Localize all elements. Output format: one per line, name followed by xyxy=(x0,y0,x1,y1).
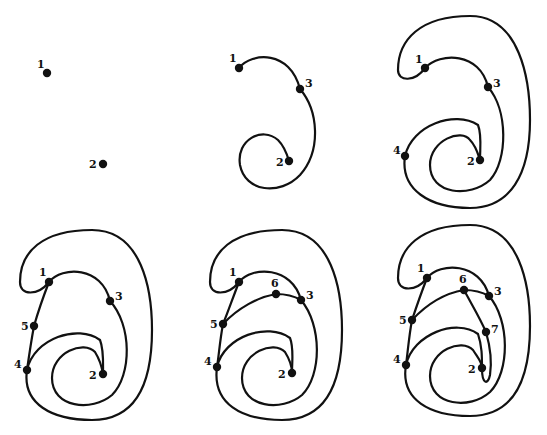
panel-6: 1635742 xyxy=(393,225,530,416)
graph-vertex-1 xyxy=(45,278,53,286)
panel-1: 12 xyxy=(37,58,107,171)
graph-vertex-4 xyxy=(401,152,409,160)
graph-vertex-6 xyxy=(460,286,468,294)
graph-edge xyxy=(52,301,127,405)
graph-vertex-1 xyxy=(423,274,431,282)
graph-vertex-3 xyxy=(106,297,114,305)
graph-vertex-3 xyxy=(297,296,305,304)
vertex-label: 6 xyxy=(459,273,467,286)
vertex-label: 1 xyxy=(229,266,237,279)
panel-2: 132 xyxy=(229,52,315,188)
vertex-label: 5 xyxy=(21,320,29,333)
vertex-label: 4 xyxy=(393,144,401,157)
graph-vertex-5 xyxy=(30,322,38,330)
graph-edge xyxy=(240,89,315,188)
graph-edge xyxy=(217,331,293,373)
graph-edge xyxy=(398,16,530,208)
graph-vertex-2 xyxy=(288,369,296,377)
graph-edge xyxy=(20,230,152,420)
vertex-label: 4 xyxy=(204,355,212,368)
graph-vertex-5 xyxy=(408,316,416,324)
graph-vertex-4 xyxy=(213,363,221,371)
graph-vertex-2 xyxy=(99,370,107,378)
vertex-label: 2 xyxy=(89,158,97,171)
graph-vertex-2 xyxy=(476,156,484,164)
vertex-label: 3 xyxy=(305,77,313,90)
vertex-label: 2 xyxy=(468,363,476,376)
vertex-label: 2 xyxy=(278,368,286,381)
vertex-label: 4 xyxy=(14,358,22,371)
graph-edge xyxy=(398,225,530,416)
graph-vertex-5 xyxy=(219,320,227,328)
graph-vertex-2 xyxy=(99,160,107,168)
graph-edge xyxy=(425,58,488,87)
graph-edge xyxy=(223,294,301,324)
graph-edge xyxy=(49,272,110,301)
graph-vertex-2 xyxy=(478,364,486,372)
vertex-label: 3 xyxy=(115,290,123,303)
vertex-label: 5 xyxy=(399,314,407,327)
panel-5: 163542 xyxy=(204,230,342,420)
vertex-label: 3 xyxy=(493,77,501,90)
graph-vertex-3 xyxy=(296,85,304,93)
graph-edge xyxy=(430,296,505,403)
spiral-graph-sequence: 121321342135421635421635742 xyxy=(0,0,547,435)
vertex-label: 3 xyxy=(494,285,502,298)
vertex-label: 1 xyxy=(417,262,425,275)
graph-edge xyxy=(242,300,317,405)
graph-vertex-3 xyxy=(484,83,492,91)
graph-vertex-4 xyxy=(23,366,31,374)
graph-edge xyxy=(210,230,342,420)
vertex-label: 4 xyxy=(393,353,401,366)
graph-edge xyxy=(430,87,503,191)
vertex-label: 6 xyxy=(271,277,279,290)
panel-4: 13542 xyxy=(14,230,152,420)
graph-vertex-3 xyxy=(485,292,493,300)
graph-vertex-2 xyxy=(285,157,293,165)
vertex-label: 1 xyxy=(415,53,423,66)
graph-edge xyxy=(239,57,300,89)
vertex-label: 2 xyxy=(89,369,97,382)
vertex-label: 2 xyxy=(467,155,475,168)
graph-vertex-1 xyxy=(235,64,243,72)
vertex-label: 5 xyxy=(210,318,218,331)
graph-vertex-6 xyxy=(272,290,280,298)
vertex-label: 1 xyxy=(229,52,237,65)
graph-vertex-7 xyxy=(482,328,490,336)
panel-3: 1342 xyxy=(393,16,530,208)
vertex-label: 7 xyxy=(491,323,499,336)
vertex-label: 2 xyxy=(276,156,284,169)
graph-vertex-1 xyxy=(235,278,243,286)
vertex-label: 3 xyxy=(306,289,314,302)
vertex-label: 1 xyxy=(39,266,47,279)
vertex-label: 1 xyxy=(37,58,45,71)
graph-vertex-4 xyxy=(402,361,410,369)
